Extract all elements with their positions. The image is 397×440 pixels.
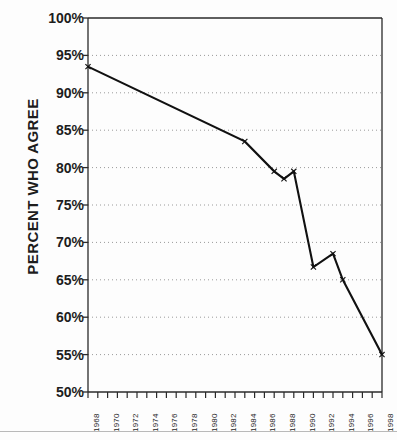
x-tick-label: 1986	[268, 413, 277, 432]
x-tick-label: 1980	[210, 413, 219, 432]
data-series-line	[88, 67, 382, 355]
data-point-markers	[85, 64, 384, 357]
x-tick-label: 1998	[386, 413, 395, 432]
x-tick-label: 1974	[151, 413, 160, 432]
x-tick-label: 1984	[249, 413, 258, 432]
x-tick-label: 1982	[229, 413, 238, 432]
y-axis-ticks	[83, 18, 88, 392]
gridlines	[88, 55, 382, 354]
x-tick-label: 1968	[92, 413, 101, 432]
chart-figure: PERCENT WHO AGREE 100%95%90%85%80%75%70%…	[0, 0, 397, 440]
x-tick-label: 1970	[112, 413, 121, 432]
page-rule	[0, 431, 397, 432]
x-axis-tick-labels: 1968197019721974197619781980198219841986…	[0, 398, 397, 440]
x-tick-label: 1996	[366, 413, 375, 432]
x-tick-label: 1976	[170, 413, 179, 432]
plot-area	[0, 0, 397, 440]
x-tick-label: 1972	[131, 413, 140, 432]
x-tick-label: 1990	[308, 413, 317, 432]
x-tick-label: 1994	[347, 413, 356, 432]
x-tick-label: 1978	[190, 413, 199, 432]
x-tick-label: 1992	[327, 413, 336, 432]
x-tick-label: 1988	[288, 413, 297, 432]
